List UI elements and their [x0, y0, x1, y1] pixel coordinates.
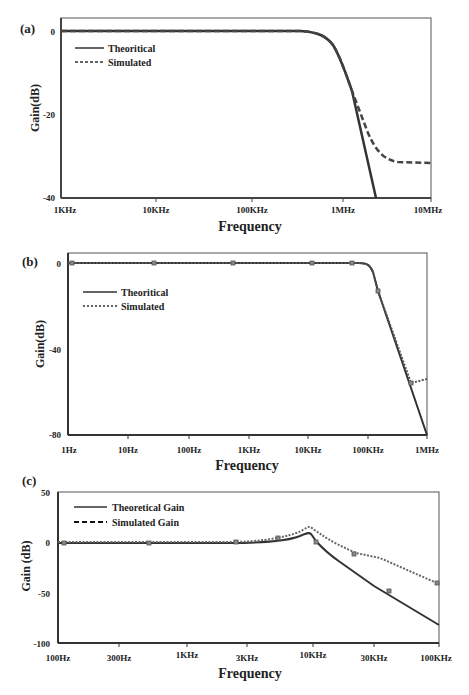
panel-c-label: (c)	[22, 473, 36, 488]
panel-c-ytick: 50	[41, 488, 51, 498]
panel-b-xtick: 1Hz	[61, 445, 77, 455]
panel-c-legend-simulated: Simulated Gain	[112, 517, 179, 528]
panel-b-xtick: 1MHz	[415, 445, 439, 455]
panel-a-legend-theoretical: Theoritical	[108, 43, 155, 54]
panel-b-ytick: 0	[57, 259, 62, 269]
panel-a-xtick: 10KHz	[143, 205, 170, 215]
panel-a-ytick: -40	[43, 193, 55, 203]
panel-c-xtick: 1KHz	[176, 650, 199, 660]
panel-a-xtick: 1KHz	[54, 205, 77, 215]
panel-b-label: (b)	[22, 254, 38, 269]
panel-c-ytick: 0	[46, 538, 51, 548]
panel-b-xtick: 1KHz	[238, 445, 261, 455]
panel-b-legend-simulated: Simulated	[121, 301, 165, 312]
panel-b-xtick: 10Hz	[118, 445, 138, 455]
figure: (a) 0 -20 -40 1KHz 10KHz 100KHz 1MHz 10M…	[0, 0, 469, 695]
panel-b-ytick: -40	[49, 345, 61, 355]
panel-a: (a) 0 -20 -40 1KHz 10KHz 100KHz 1MHz 10M…	[20, 18, 442, 234]
panel-c-theoretical-curve	[58, 533, 439, 625]
panel-c: (c) 50 0 -50 -100 100Hz 300Hz 1KHz 3KHz …	[19, 473, 452, 681]
panel-a-ytick: 0	[51, 27, 56, 37]
panel-b-xtick: 100Hz	[177, 445, 202, 455]
panel-b-ytick: -80	[49, 430, 61, 440]
panel-a-xlabel: Frequency	[218, 219, 282, 234]
panel-a-ylabel: Gain(dB)	[28, 84, 42, 132]
panel-c-xlabel: Frequency	[218, 666, 282, 681]
panel-a-label: (a)	[20, 21, 35, 36]
panel-a-legend-simulated: Simulated	[108, 57, 152, 68]
panel-c-legend-theoretical: Theoretical Gain	[112, 502, 185, 513]
panel-a-xtick: 10MHz	[414, 205, 443, 215]
panel-b-xtick: 10KHz	[295, 445, 322, 455]
panel-b-ylabel: Gain(dB)	[33, 320, 47, 368]
panel-c-xtick: 100Hz	[46, 653, 71, 663]
panel-a-xtick: 100KHz	[236, 205, 268, 215]
panel-c-ytick: -100	[34, 639, 51, 649]
panel-b: (b) 0 -40 -80 1Hz 10Hz 100Hz 1KHz 10KHz …	[22, 253, 439, 473]
panel-c-ytick: -50	[38, 589, 50, 599]
panel-c-xtick: 3KHz	[236, 653, 259, 663]
panel-c-plot-frame	[58, 492, 439, 643]
panel-c-simulated-curve	[58, 527, 439, 584]
panel-b-plot-frame	[68, 253, 427, 435]
panel-c-xtick: 30KHz	[361, 653, 388, 663]
panel-c-xtick: 300Hz	[107, 653, 132, 663]
panel-b-simulated-curve	[68, 263, 427, 383]
panel-b-legend-theoretical: Theoritical	[121, 287, 168, 298]
panel-c-xtick: 10KHz	[300, 650, 327, 660]
panel-a-xtick: 1MHz	[331, 205, 355, 215]
panel-a-ytick: -20	[43, 110, 55, 120]
panel-b-xtick: 100KHz	[352, 445, 384, 455]
panel-c-xtick: 100KHz	[420, 653, 452, 663]
panel-c-ylabel: Gain (dB)	[19, 540, 33, 591]
panel-b-xlabel: Frequency	[215, 458, 279, 473]
